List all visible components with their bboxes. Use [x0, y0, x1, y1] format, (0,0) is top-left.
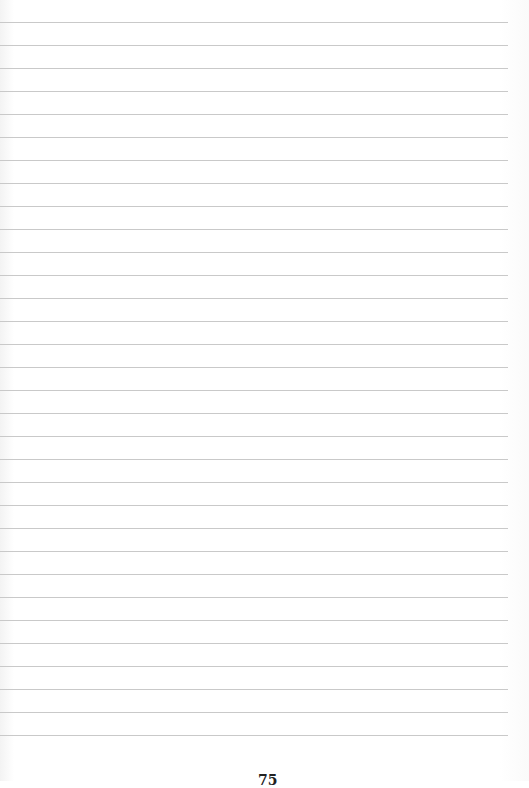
ruled-line — [0, 390, 508, 391]
ruled-line — [0, 114, 508, 115]
ruled-line — [0, 321, 508, 322]
ruled-line — [0, 68, 508, 69]
ruled-line — [0, 344, 508, 345]
ruled-line — [0, 252, 508, 253]
ruled-line — [0, 666, 508, 667]
ruled-line — [0, 620, 508, 621]
ruled-line — [0, 160, 508, 161]
ruled-line — [0, 183, 508, 184]
ruled-line — [0, 137, 508, 138]
ruled-line — [0, 436, 508, 437]
ruled-line — [0, 505, 508, 506]
ruled-line — [0, 574, 508, 575]
ruled-line — [0, 689, 508, 690]
ruled-line — [0, 413, 508, 414]
page-number: 75 — [258, 773, 277, 787]
ruled-line — [0, 298, 508, 299]
ruled-line — [0, 735, 508, 736]
ruled-line — [0, 91, 508, 92]
ruled-line — [0, 229, 508, 230]
ruled-line — [0, 643, 508, 644]
ruled-line — [0, 367, 508, 368]
ruled-line — [0, 45, 508, 46]
ruled-line — [0, 22, 508, 23]
ruled-line — [0, 712, 508, 713]
ruled-line — [0, 551, 508, 552]
ruled-line — [0, 206, 508, 207]
ruled-line — [0, 459, 508, 460]
ruled-line — [0, 275, 508, 276]
ruled-line — [0, 528, 508, 529]
ruled-line — [0, 482, 508, 483]
ruled-line — [0, 597, 508, 598]
